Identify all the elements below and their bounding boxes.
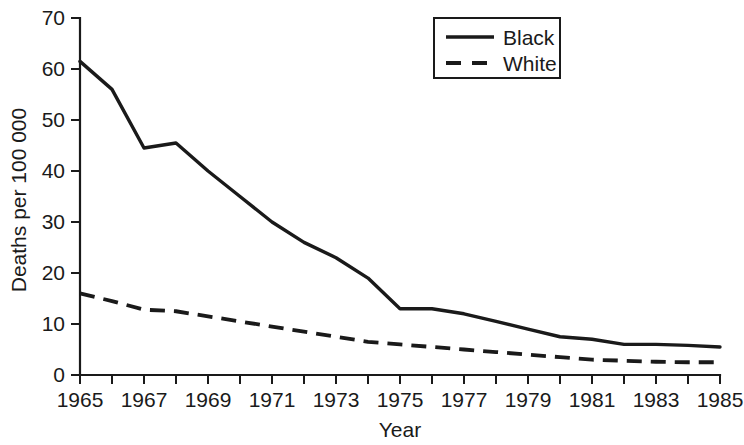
x-tick-label: 1975: [377, 388, 424, 411]
x-tick-label: 1971: [249, 388, 296, 411]
x-tick-label: 1981: [569, 388, 616, 411]
series-line-white: [80, 293, 720, 362]
x-tick-label: 1969: [185, 388, 232, 411]
legend-label-white: White: [503, 52, 557, 75]
y-tick-label: 50: [42, 108, 65, 131]
y-tick-label: 70: [42, 6, 65, 29]
y-tick-label: 0: [53, 363, 65, 386]
x-tick-label: 1977: [441, 388, 488, 411]
x-axis-ticks: 1965196719691971197319751977197919811983…: [57, 375, 744, 411]
legend-label-black: Black: [503, 26, 555, 49]
y-axis-title: Deaths per 100 000: [7, 108, 30, 292]
y-tick-label: 20: [42, 261, 65, 284]
x-tick-label: 1973: [313, 388, 360, 411]
y-tick-label: 60: [42, 57, 65, 80]
legend: Black White: [434, 18, 560, 78]
x-axis-title: Year: [379, 418, 421, 441]
y-tick-label: 40: [42, 159, 65, 182]
chart-figure: 010203040506070 196519671969197119731975…: [0, 0, 744, 445]
y-tick-label: 10: [42, 312, 65, 335]
series-line-black: [80, 61, 720, 347]
y-tick-label: 30: [42, 210, 65, 233]
x-tick-label: 1967: [121, 388, 168, 411]
x-tick-label: 1965: [57, 388, 104, 411]
chart-canvas: 010203040506070 196519671969197119731975…: [0, 0, 744, 445]
x-tick-label: 1985: [697, 388, 744, 411]
x-tick-label: 1983: [633, 388, 680, 411]
x-tick-label: 1979: [505, 388, 552, 411]
y-axis-ticks: 010203040506070: [42, 6, 80, 386]
